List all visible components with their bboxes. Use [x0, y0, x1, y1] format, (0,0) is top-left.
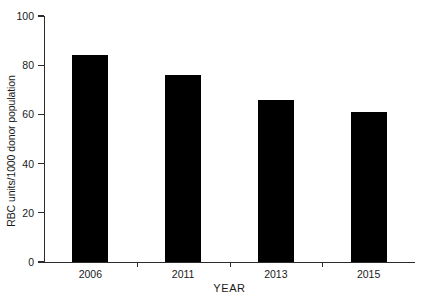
- x-axis-tick-label: 2015: [339, 268, 399, 280]
- y-axis-tick: [38, 114, 44, 115]
- y-axis-tick-label: 0: [4, 257, 34, 267]
- bar: [165, 75, 201, 262]
- bar: [351, 112, 387, 262]
- y-axis-line: [44, 16, 45, 263]
- y-axis-tick: [38, 15, 44, 16]
- y-axis-tick-label: 40: [4, 159, 34, 169]
- bar-chart-figure: RBC units/1000 donor population 02040608…: [0, 0, 425, 302]
- x-axis-title: YEAR: [44, 282, 415, 294]
- bar: [258, 100, 294, 262]
- y-axis-tick: [38, 261, 44, 262]
- y-axis-tick-label: 20: [4, 208, 34, 218]
- bar: [72, 55, 108, 262]
- y-axis-tick-label: 80: [4, 60, 34, 70]
- x-axis-tick-label: 2006: [60, 268, 120, 280]
- y-axis-tick: [38, 65, 44, 66]
- x-axis-tick: [322, 262, 323, 267]
- y-axis-tick-label: 100: [4, 11, 34, 21]
- x-axis-tick: [230, 262, 231, 267]
- y-axis-tick: [38, 212, 44, 213]
- y-axis-tick: [38, 163, 44, 164]
- x-axis-tick: [137, 262, 138, 267]
- y-axis-tick-label: 60: [4, 109, 34, 119]
- x-axis-tick-label: 2013: [246, 268, 306, 280]
- x-axis-tick-label: 2011: [153, 268, 213, 280]
